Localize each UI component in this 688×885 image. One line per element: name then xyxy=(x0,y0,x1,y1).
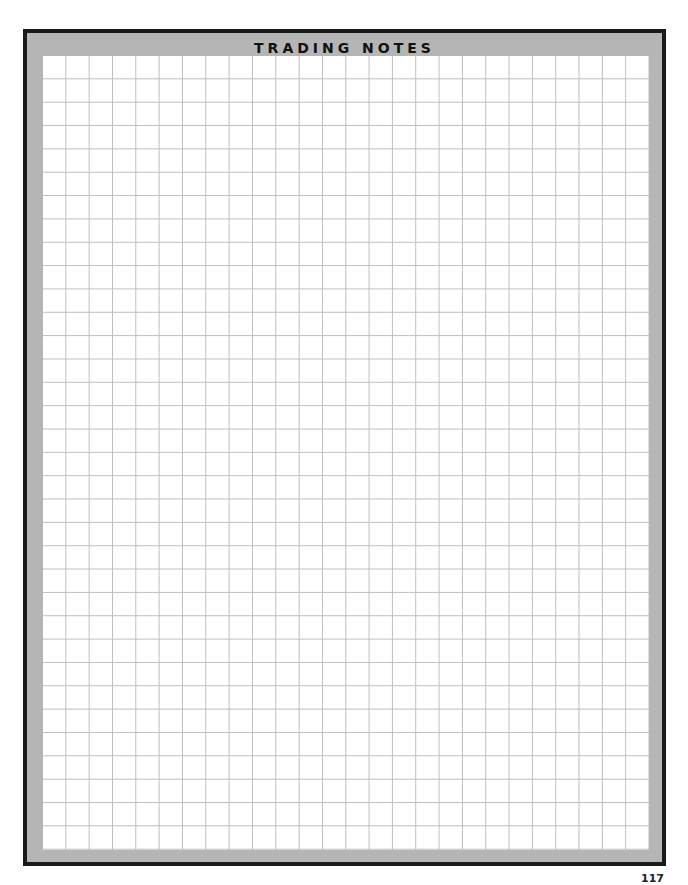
notes-frame: TRADING NOTES xyxy=(23,29,666,866)
page-number: 117 xyxy=(641,872,664,885)
graph-paper-grid[interactable] xyxy=(43,56,649,850)
